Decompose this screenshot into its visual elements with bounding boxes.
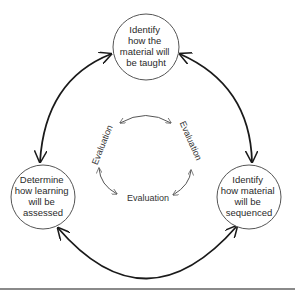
node-top-line-2: how the xyxy=(128,35,161,46)
inner-arc-top xyxy=(120,116,171,124)
node-left-line-2: how learning xyxy=(15,185,69,196)
node-top-line-3: material will xyxy=(120,46,170,57)
evaluation-label-bottom: Evaluation xyxy=(127,193,169,203)
evaluation-label-right: Evaluation xyxy=(178,120,204,162)
node-top-line-4: be taught xyxy=(126,57,166,68)
node-top: Identify how the material will be taught xyxy=(113,14,179,80)
node-left-line-4: assessed xyxy=(23,207,63,218)
node-right: Identify how material will be sequenced xyxy=(217,165,281,229)
node-left: Determine how learning will be assessed xyxy=(11,165,75,229)
inner-arc-right xyxy=(173,170,191,195)
curriculum-cycle-diagram: Identify how the material will be taught… xyxy=(0,0,295,290)
node-right-line-3: will be xyxy=(233,196,260,207)
node-left-line-1: Determine xyxy=(20,174,64,185)
node-top-line-1: Identify xyxy=(129,24,160,35)
evaluation-label-left: Evaluation xyxy=(90,124,115,167)
inner-arc-left xyxy=(99,168,117,194)
node-right-line-4: sequenced xyxy=(226,207,272,218)
node-left-line-3: will be xyxy=(27,196,54,207)
node-right-line-2: how material xyxy=(221,185,275,196)
node-right-line-1: Identify xyxy=(232,174,263,185)
arc-bottom xyxy=(58,226,237,279)
